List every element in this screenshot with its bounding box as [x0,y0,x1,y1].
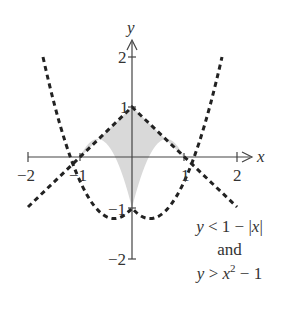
caption-line-1: y < 1 − |x| [178,216,281,237]
caption-line-3: y > x2 − 1 [178,263,281,284]
caption-text: > [204,264,222,283]
inequality-caption: y < 1 − |x| and y > x2 − 1 [178,216,281,284]
x-axis-label: x [256,147,265,166]
y-tick-label: −2 [108,250,126,269]
caption-text: < 1 − | [204,217,252,236]
x-tick-label: 2 [233,166,242,185]
caption-line-2: and [178,239,281,260]
caption-var-x: x [223,264,231,283]
y-tick-label: 2 [118,48,127,67]
y-tick-label: 1 [120,98,129,117]
x-tick-label: −1 [69,166,87,185]
x-tick-label: 1 [181,166,190,185]
x-tick-label: −2 [17,166,35,185]
caption-text: − 1 [236,264,263,283]
caption-var-y: y [196,217,204,236]
y-axis-label: y [125,18,135,37]
caption-text: | [259,217,262,236]
y-tick-label: −1 [108,200,126,219]
